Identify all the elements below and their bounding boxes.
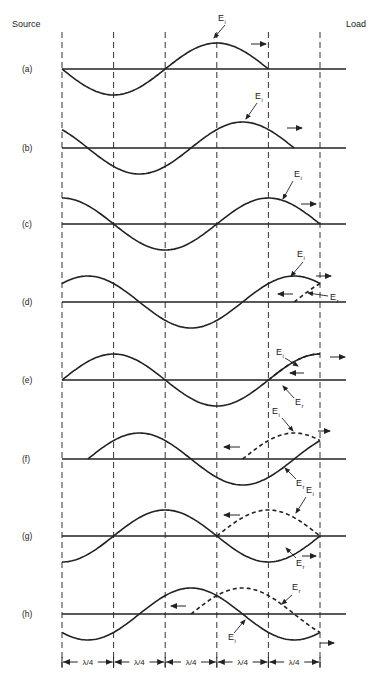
reflected-wave <box>268 354 320 380</box>
incident-label: Ei <box>228 632 236 644</box>
row-label: (h) <box>22 609 33 619</box>
reflected-wave <box>243 433 320 459</box>
incident-label: Ei <box>306 485 314 497</box>
incident-label: Ei <box>272 406 280 418</box>
incident-label-pointer-arrow-icon <box>282 418 293 431</box>
reflected-label: Er <box>292 582 301 594</box>
reflected-label: Er <box>296 558 305 570</box>
row-label: (d) <box>22 297 33 307</box>
reflected-label: Er <box>330 292 339 304</box>
load-label: Load <box>346 19 366 29</box>
reflected-label-pointer-arrow-icon <box>308 293 328 296</box>
standing-wave-diagram: Source Load (a)Ei(b)Ei(c)Ei(d)EiEr(e)EiE… <box>0 0 382 690</box>
wave-row-c: (c)Ei <box>22 169 346 250</box>
incident-label-pointer-arrow-icon <box>214 25 225 38</box>
quarter-wavelength-label: λ/4 <box>82 658 93 667</box>
reflected-label-pointer-arrow-icon <box>282 595 292 604</box>
reflected-wave <box>294 284 320 302</box>
wave-row-g: (g)EiEr <box>22 485 346 570</box>
wave-row-f: (f)EiEr <box>22 406 346 490</box>
row-label: (a) <box>22 64 33 74</box>
reflected-label: Er <box>296 478 305 490</box>
incident-label: Ei <box>255 91 263 103</box>
row-label: (c) <box>22 219 32 229</box>
incident-label-pointer-arrow-icon <box>285 358 298 366</box>
quarter-wavelength-label: λ/4 <box>134 658 145 667</box>
incident-label-pointer-arrow-icon <box>291 262 303 276</box>
wave-row-b: (b)Ei <box>22 91 346 174</box>
incident-label-pointer-arrow-icon <box>283 181 293 199</box>
row-label: (b) <box>22 143 33 153</box>
incident-label: Ei <box>218 13 226 25</box>
quarter-wavelength-label: λ/4 <box>237 658 248 667</box>
quarter-wavelength-label: λ/4 <box>289 658 300 667</box>
incident-label: Ei <box>276 347 284 359</box>
incident-label-pointer-arrow-icon <box>234 620 245 633</box>
wave-row-h: (h)EiEr <box>22 582 346 644</box>
quarter-wavelength-label: λ/4 <box>186 658 197 667</box>
quarter-wavelength-dimensions: λ/4λ/4λ/4λ/4λ/4 <box>62 657 320 667</box>
incident-label: Ei <box>294 169 302 181</box>
reflected-label: Er <box>295 397 304 409</box>
wave-row-e: (e)EiEr <box>22 347 346 409</box>
row-label: (g) <box>22 531 33 541</box>
row-label: (f) <box>22 454 30 464</box>
reflected-label-pointer-arrow-icon <box>285 468 296 479</box>
wave-row-d: (d)EiEr <box>22 249 346 328</box>
source-label: Source <box>12 19 41 29</box>
reflected-wave <box>191 588 320 632</box>
wave-row-a: (a)Ei <box>22 13 346 95</box>
incident-label-pointer-arrow-icon <box>296 497 306 513</box>
reflected-label-pointer-arrow-icon <box>283 386 294 398</box>
row-label: (e) <box>22 375 33 385</box>
incident-label-pointer-arrow-icon <box>246 103 257 119</box>
incident-label: Ei <box>297 249 305 261</box>
wave-rows: (a)Ei(b)Ei(c)Ei(d)EiEr(e)EiEr(f)EiEr(g)E… <box>22 13 346 644</box>
